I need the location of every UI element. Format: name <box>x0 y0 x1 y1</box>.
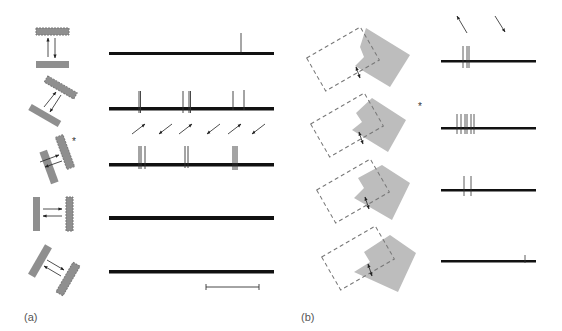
trace-b-row-4 <box>441 255 536 263</box>
trace-row-2 <box>109 90 274 113</box>
stimulus-horizontal-bars <box>36 28 69 68</box>
occluded-corner-4 <box>322 226 416 292</box>
stimulus-oblique-bars-2: * <box>39 135 76 185</box>
figure-canvas: * <box>0 0 562 331</box>
direction-arrows <box>132 124 265 134</box>
trace-row-5 <box>109 270 274 274</box>
occluded-corner-1 <box>307 27 410 91</box>
panel-a-stimuli: * <box>28 28 80 296</box>
trace-b-row-2 <box>441 114 536 134</box>
stimulus-vertical-bars <box>33 197 73 231</box>
panel-b-traces <box>441 16 536 263</box>
occluded-corner-2: * <box>311 93 422 157</box>
stimulus-oblique-bars-1 <box>28 76 77 127</box>
top-direction-arrows <box>457 16 505 33</box>
trace-row-4 <box>109 216 274 220</box>
trace-row-3 <box>109 146 274 170</box>
stimulus-oblique-bars-3 <box>28 244 80 295</box>
panel-a-traces <box>109 33 274 290</box>
panel-a-label: (a) <box>24 311 37 323</box>
panel-b-stimuli: * <box>307 27 422 292</box>
trace-b-row-3 <box>441 176 536 196</box>
occluded-corner-3 <box>317 159 410 223</box>
trace-b-row-1 <box>441 46 536 68</box>
star-marker: * <box>72 136 76 147</box>
trace-row-1 <box>109 33 274 55</box>
star-marker: * <box>418 101 422 112</box>
scale-bar <box>206 284 259 290</box>
panel-b-label: (b) <box>301 311 314 323</box>
